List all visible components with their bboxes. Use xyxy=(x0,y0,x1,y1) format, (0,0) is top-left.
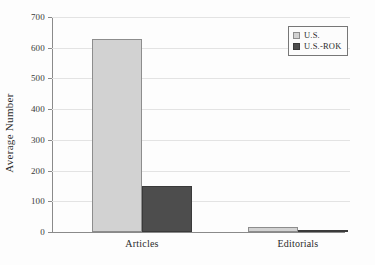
legend: U.S. U.S.-ROK xyxy=(288,26,348,56)
y-tick-label: 400 xyxy=(31,105,45,114)
x-axis-baseline xyxy=(52,232,345,233)
bar-articles-u-s xyxy=(92,39,142,232)
bar-editorials-u-s xyxy=(248,227,298,232)
legend-label-us-rok: U.S.-ROK xyxy=(304,42,342,51)
x-axis-label-editorials: Editorials xyxy=(278,238,319,249)
bar-articles-u-s-rok xyxy=(142,186,192,232)
y-tick-label: 200 xyxy=(31,166,45,175)
y-tick-mark xyxy=(48,109,52,110)
y-tick-mark xyxy=(48,78,52,79)
legend-swatch-icon-us-rok xyxy=(293,43,300,50)
y-tick-mark xyxy=(48,48,52,49)
y-tick-mark xyxy=(48,171,52,172)
y-tick-mark xyxy=(48,201,52,202)
bar-editorials-u-s-rok xyxy=(298,230,348,232)
legend-item-us-rok: U.S.-ROK xyxy=(293,41,342,52)
y-tick-label: 0 xyxy=(40,228,45,237)
y-tick-label: 600 xyxy=(31,43,45,52)
y-axis-title: Average Number xyxy=(3,93,15,172)
y-tick-mark xyxy=(48,232,52,233)
legend-swatch-icon-us xyxy=(293,32,300,39)
y-tick-mark xyxy=(48,140,52,141)
y-tick-label: 700 xyxy=(31,13,45,22)
legend-label-us: U.S. xyxy=(304,31,320,40)
y-tick-mark xyxy=(48,17,52,18)
gridline xyxy=(52,17,350,18)
x-axis-label-articles: Articles xyxy=(125,238,158,249)
legend-item-us: U.S. xyxy=(293,30,342,41)
y-tick-label: 100 xyxy=(31,197,45,206)
bar-chart: Average Number 7006005004003002001000 Ar… xyxy=(0,0,375,265)
y-tick-label: 300 xyxy=(31,135,45,144)
y-tick-label: 500 xyxy=(31,74,45,83)
